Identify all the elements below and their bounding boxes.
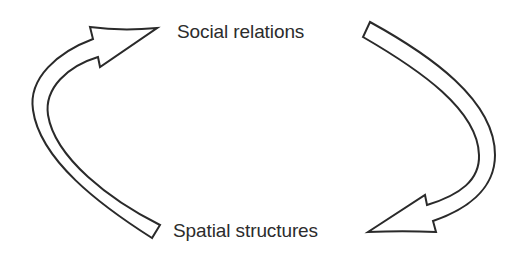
arrow-spatial-to-social <box>32 27 160 238</box>
arrow-social-to-spatial <box>363 22 495 232</box>
node-social-relations: Social relations <box>177 22 304 41</box>
cycle-diagram: Social relations Spatial structures <box>0 0 523 262</box>
node-spatial-structures: Spatial structures <box>173 221 318 240</box>
